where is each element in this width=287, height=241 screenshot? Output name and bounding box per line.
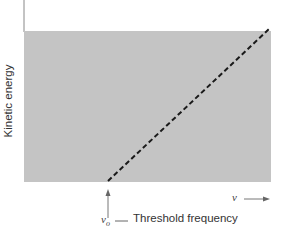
threshold-symbol-sub: o bbox=[106, 219, 110, 228]
shaded-plot-area bbox=[24, 31, 271, 182]
figure: Kinetic energy ν νo Threshold frequency bbox=[0, 0, 287, 241]
x-axis-arrow-head-icon bbox=[263, 197, 270, 202]
threshold-label: Threshold frequency bbox=[133, 212, 238, 224]
threshold-arrow-head-icon bbox=[106, 189, 111, 196]
y-axis-label: Kinetic energy bbox=[2, 64, 18, 138]
x-axis-label: ν bbox=[232, 191, 237, 203]
threshold-symbol: νo bbox=[101, 213, 110, 228]
chart-svg bbox=[0, 0, 287, 241]
